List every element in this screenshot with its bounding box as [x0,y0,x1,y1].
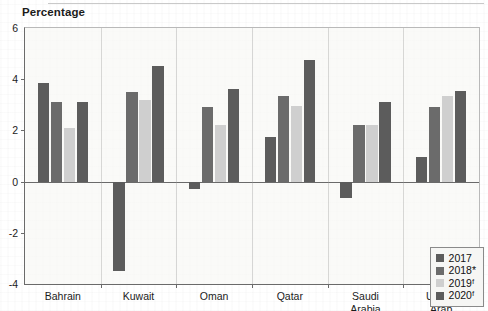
x-axis-label: Saudi Arabia [347,290,385,311]
bar-group-bars [176,28,252,284]
bar-2019-saudi-arabia[interactable] [366,125,378,181]
x-axis-tick [101,284,102,288]
bar-2020-united-arab-emirates[interactable] [455,91,467,182]
bar-2019-kuwait[interactable] [139,100,151,182]
bar-group: Kuwait [101,28,177,284]
bar-2019-oman[interactable] [215,125,227,181]
bar-group-bars [328,28,404,284]
bar-2018-qatar[interactable] [278,96,290,182]
x-axis-tick [176,284,177,288]
y-axis-tick-label: 2 [12,124,25,136]
top-rule [48,3,484,4]
y-axis-tick-label: -2 [9,227,25,239]
chart-figure: Percentage 6420-2-4 BahrainKuwaitOmanQat… [0,0,488,311]
bar-group: Qatar [252,28,328,284]
legend-swatch-icon [436,292,444,300]
legend-item[interactable]: 2017 [436,252,476,264]
legend-label: 2018* [449,265,476,276]
legend-swatch-icon [436,267,444,275]
x-axis-tick [403,284,404,288]
legend-swatch-icon [436,254,444,262]
bar-2020-kuwait[interactable] [152,66,164,181]
bar-2019-united-arab-emirates[interactable] [442,96,454,182]
bar-group-bars [25,28,101,284]
bar-2017-united-arab-emirates[interactable] [416,157,428,181]
legend-item[interactable]: 2019ᶠ [436,277,476,289]
bar-group: Oman [176,28,252,284]
x-axis-tick [252,284,253,288]
bar-2017-oman[interactable] [189,182,201,190]
bar-2019-bahrain[interactable] [64,128,76,182]
bar-group: Bahrain [25,28,101,284]
chart-legend: 20172018*2019ᶠ2020ᶠ [430,247,484,308]
bar-2018-united-arab-emirates[interactable] [429,107,441,181]
bar-2020-qatar[interactable] [304,60,316,182]
bar-2020-bahrain[interactable] [77,102,89,181]
y-axis-title: Percentage [22,6,85,18]
bar-2018-bahrain[interactable] [51,102,63,181]
bar-2017-bahrain[interactable] [38,83,50,182]
bar-2020-saudi-arabia[interactable] [379,102,391,181]
bar-2019-qatar[interactable] [291,106,303,182]
legend-label: 2017 [449,253,472,264]
bar-2020-oman[interactable] [228,89,240,181]
plot-area: 6420-2-4 BahrainKuwaitOmanQatarSaudi Ara… [24,27,480,285]
legend-label: 2020ᶠ [449,290,475,301]
bar-group-bars [101,28,177,284]
bar-2017-kuwait[interactable] [113,182,125,272]
y-axis-tick-label: 6 [12,22,25,34]
bar-group: Saudi Arabia [328,28,404,284]
y-axis-tick-label: 0 [12,176,25,188]
legend-swatch-icon [436,279,444,287]
bar-2017-qatar[interactable] [265,137,277,182]
x-axis-label: Bahrain [45,290,81,303]
x-axis-label: Oman [200,290,229,303]
x-axis-label: Qatar [277,290,303,303]
x-axis-tick [328,284,329,288]
x-axis-label: Kuwait [123,290,155,303]
y-axis-tick-label: 4 [12,73,25,85]
legend-item[interactable]: 2020ᶠ [436,290,476,302]
legend-item[interactable]: 2018* [436,265,476,277]
bar-2018-saudi-arabia[interactable] [353,125,365,181]
bar-2017-saudi-arabia[interactable] [340,182,352,199]
bar-2018-kuwait[interactable] [126,92,138,182]
y-axis-tick-label: -4 [9,278,25,290]
bar-2018-oman[interactable] [202,107,214,181]
legend-label: 2019ᶠ [449,278,475,289]
bar-group-bars [252,28,328,284]
